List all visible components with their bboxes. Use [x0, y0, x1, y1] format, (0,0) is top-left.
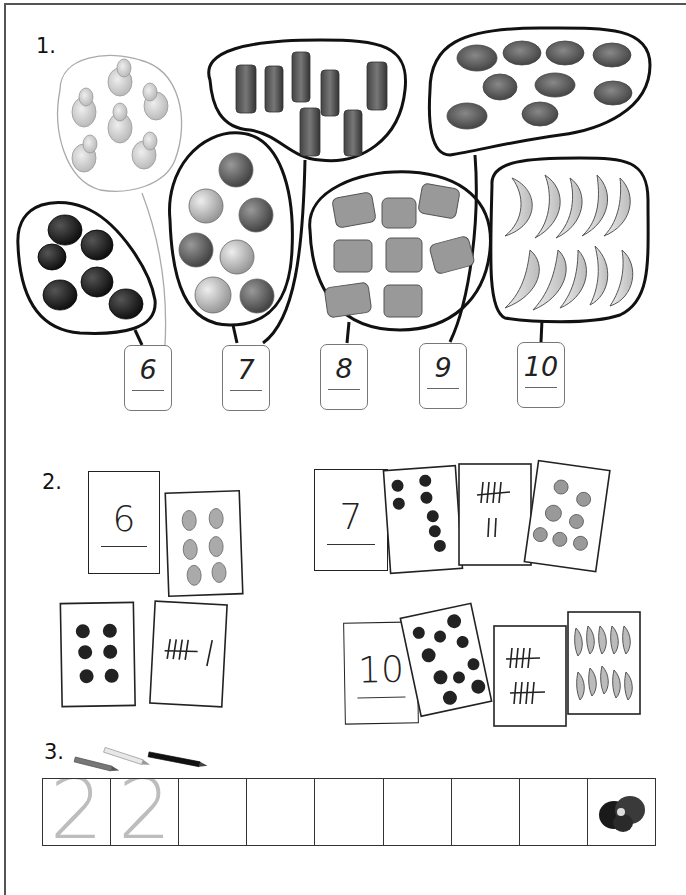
pear-icon [182, 510, 197, 530]
pencil-gray-icon [74, 757, 120, 773]
writing-cell-empty[interactable] [520, 779, 588, 845]
card-6-tally [150, 601, 227, 707]
flower-icon [588, 779, 655, 845]
pear-icon [209, 536, 224, 556]
writing-cell-traced[interactable]: 2 [111, 779, 179, 845]
card-7-tally [459, 464, 531, 565]
writing-cell-empty[interactable] [179, 779, 247, 845]
writing-cell-traced[interactable]: 2 [43, 779, 111, 845]
pencil-light-icon [104, 747, 151, 767]
card-7-dots [383, 466, 462, 574]
writing-cell-empty[interactable] [384, 779, 452, 845]
card-10-tally [494, 626, 566, 726]
digit-writing-row: 2 2 [42, 778, 656, 846]
card-7-apples [524, 461, 609, 572]
writing-cell-empty[interactable] [452, 779, 520, 845]
writing-cell-empty[interactable] [315, 779, 383, 845]
traced-digit: 2 [43, 779, 110, 845]
card-10-dots [400, 603, 491, 716]
pencil-black-icon [148, 752, 208, 768]
card-6-dots [60, 602, 135, 706]
pear-icon [209, 508, 224, 528]
pear-icon [187, 565, 202, 585]
writing-cell-empty[interactable] [247, 779, 315, 845]
pear-icon [183, 539, 198, 559]
card-10-bananas [568, 612, 640, 714]
traced-digit: 2 [111, 779, 178, 845]
pear-icon [212, 562, 227, 582]
writing-cell-flower [588, 779, 655, 845]
card-6-pears [165, 491, 243, 597]
